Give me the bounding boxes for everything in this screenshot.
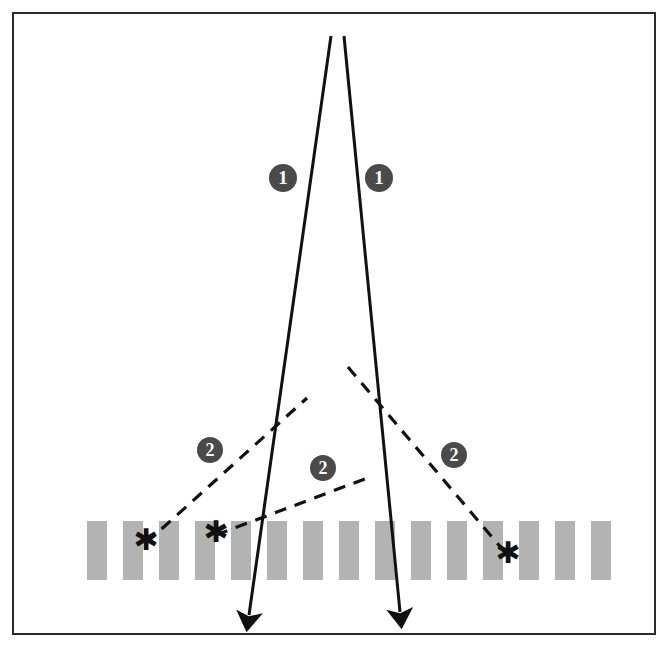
diagram-svg: ✱✱✱: [0, 0, 668, 647]
badge-1-right: 1: [365, 164, 393, 192]
grating-bar: [267, 521, 287, 580]
grating-bar: [231, 521, 251, 580]
grating-bar: [87, 521, 107, 580]
grating-bar: [303, 521, 323, 580]
grating-bar: [519, 521, 539, 580]
scatter-point-2: ✱: [203, 514, 228, 549]
grating-bar: [159, 521, 179, 580]
badge-2-middle: 2: [310, 455, 336, 481]
grating-bar: [591, 521, 611, 580]
grating-bar: [411, 521, 431, 580]
figure-canvas: ✱✱✱ 11222: [0, 0, 668, 647]
badge-2-left: 2: [197, 437, 223, 463]
grating-bar: [555, 521, 575, 580]
scatter-point-1: ✱: [133, 522, 158, 557]
scatter-point-3: ✱: [495, 535, 520, 570]
badge-2-right: 2: [441, 442, 467, 468]
grating-bar: [447, 521, 467, 580]
grating-bar: [339, 521, 359, 580]
grating-bars: [87, 521, 611, 580]
badge-1-left: 1: [269, 164, 297, 192]
